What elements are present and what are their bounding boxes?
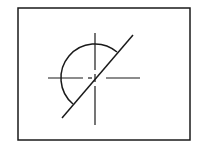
diagram-svg — [0, 0, 199, 153]
diagonal-line — [62, 35, 133, 118]
frame-rectangle — [18, 8, 190, 140]
diagram-canvas — [0, 0, 199, 153]
semicircle-arc — [61, 44, 117, 104]
